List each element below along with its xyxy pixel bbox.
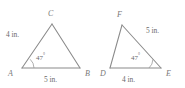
side-label-ab: 5 in. (44, 76, 57, 83)
geometry-figure: A B C 4 in. 5 in. 47° D E F 5 in. 4 in. … (0, 0, 185, 88)
triangles-drawing (0, 0, 185, 88)
angle-label-a: 47° (36, 53, 45, 62)
vertex-label-a: A (8, 70, 13, 78)
angle-label-e: 47° (131, 53, 140, 62)
triangle-def-angle-arc-e (149, 59, 153, 68)
vertex-label-b: B (85, 70, 90, 78)
vertex-label-d: D (100, 70, 106, 78)
angle-label-e-degree: ° (138, 52, 140, 58)
vertex-label-f: F (117, 11, 122, 19)
triangle-abc-angle-arc-a (30, 59, 34, 68)
angle-label-a-value: 47 (36, 54, 43, 62)
angle-label-e-value: 47 (131, 54, 138, 62)
vertex-label-e: E (166, 70, 171, 78)
vertex-label-c: C (48, 10, 53, 18)
triangle-abc (22, 24, 80, 68)
side-label-fe: 5 in. (146, 27, 159, 34)
triangle-abc-side-cb (52, 24, 80, 68)
angle-label-a-degree: ° (43, 52, 45, 58)
triangle-def-side-df (110, 25, 122, 68)
side-label-ac: 4 in. (6, 31, 19, 38)
side-label-de: 4 in. (122, 76, 135, 83)
